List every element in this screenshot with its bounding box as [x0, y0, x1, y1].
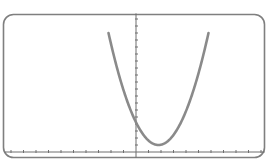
axes — [5, 13, 265, 157]
parabola-curve — [109, 33, 209, 145]
graph-frame — [4, 15, 265, 158]
graph-plot — [0, 0, 268, 165]
graph-screen — [0, 0, 268, 165]
